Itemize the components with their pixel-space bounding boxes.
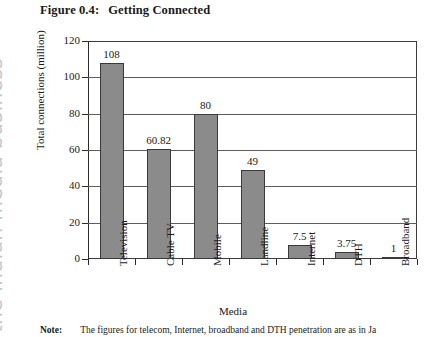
bar-value-label: 1 [364, 242, 424, 254]
bar-chart: 020406080100120 10860.8280497.53.751 Tel… [0, 0, 436, 337]
bar-value-label: 108 [82, 48, 142, 60]
x-axis-tick [370, 259, 371, 265]
x-axis-title-text: Media [219, 305, 247, 317]
x-axis-tick [323, 259, 324, 265]
figure-note: Note:The figures for telecom, Internet, … [40, 325, 436, 335]
x-axis-tick [276, 259, 277, 265]
gridline [88, 150, 417, 151]
y-axis-tick-label: 0 [36, 252, 80, 264]
x-axis-title: Media [0, 305, 436, 317]
x-axis-tick [88, 259, 89, 265]
x-axis-category-label: Mobile [211, 234, 223, 266]
bar-value-label: 60.82 [129, 134, 189, 146]
x-axis-tick [135, 259, 136, 265]
y-axis-tick-label: 20 [36, 216, 80, 228]
y-axis-title: Total connections (million) [34, 30, 46, 150]
x-axis-category-label: DTH [352, 243, 364, 266]
x-axis-category-label: Cable TV [164, 223, 176, 266]
bar-value-label: 49 [223, 155, 283, 167]
gridline [88, 77, 417, 78]
x-axis-tick [182, 259, 183, 265]
x-axis-category-label: Internet [305, 232, 317, 266]
note-label: Note: [40, 325, 62, 335]
y-axis-tick [82, 41, 88, 42]
x-axis-category-label: Broadband [399, 218, 411, 266]
x-axis-tick [229, 259, 230, 265]
x-axis-category-label: Television [117, 220, 129, 266]
bar-value-label: 80 [176, 99, 236, 111]
x-axis-tick [417, 259, 418, 265]
note-text: The figures for telecom, Internet, broad… [80, 325, 376, 335]
x-axis-category-label: Landline [258, 227, 270, 266]
gridline [88, 114, 417, 115]
y-axis-tick-label: 40 [36, 179, 80, 191]
